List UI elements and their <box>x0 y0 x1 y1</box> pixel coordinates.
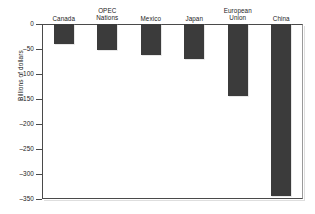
y-axis-tick-label-text: 0 <box>8 20 34 27</box>
chart-screenshot: Billions of dollars 0–50–100–150–200–250… <box>0 0 315 214</box>
bar[interactable] <box>228 24 248 96</box>
y-axis-tick-label-text: –100 <box>8 70 34 77</box>
y-axis-tick-label: –300 <box>0 170 34 178</box>
y-axis-tick-label: 0 <box>0 20 34 28</box>
y-axis-tick <box>36 99 42 100</box>
y-axis-tick-label: –50 <box>0 45 34 53</box>
bar[interactable] <box>271 24 291 196</box>
y-axis-tick-label-text: –250 <box>8 145 34 152</box>
plot-area <box>42 24 303 199</box>
y-axis-tick <box>36 149 42 150</box>
y-axis-tick-label-text: –350 <box>8 195 34 202</box>
y-axis-tick <box>36 74 42 75</box>
y-axis-tick <box>36 199 42 200</box>
y-axis-tick-label: –350 <box>0 195 34 203</box>
y-axis-tick-label-text: –150 <box>8 95 34 102</box>
bar[interactable] <box>54 24 74 44</box>
y-axis-tick <box>36 174 42 175</box>
y-axis-tick <box>36 124 42 125</box>
y-axis-tick-label-text: –300 <box>8 170 34 177</box>
y-axis-tick-label: –250 <box>0 145 34 153</box>
top-cropped-text-band <box>0 0 315 5</box>
y-axis-tick <box>36 49 42 50</box>
y-axis-tick-label-text: –200 <box>8 120 34 127</box>
y-axis-tick-label-text: –50 <box>8 45 34 52</box>
y-axis-tick-label: –100 <box>0 70 34 78</box>
y-axis-tick <box>36 24 42 25</box>
y-axis-tick-label: –150 <box>0 95 34 103</box>
bar[interactable] <box>184 24 204 59</box>
bar[interactable] <box>97 24 117 50</box>
y-axis-tick-label: –200 <box>0 120 34 128</box>
x-axis-category-label: China <box>251 15 311 22</box>
bar[interactable] <box>141 24 161 55</box>
